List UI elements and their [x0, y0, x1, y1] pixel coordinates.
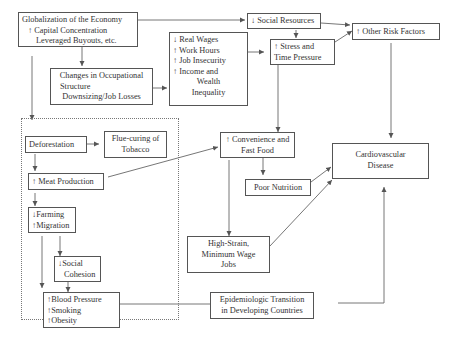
node-poor-nutrition-label: Poor Nutrition: [249, 183, 307, 194]
node-deforestation: Deforestation: [25, 136, 87, 153]
node-social-cohesion-line-2: Cohesion: [58, 270, 97, 281]
node-other-risk-factors: ↑ Other Risk Factors: [352, 23, 440, 40]
node-high-strain-jobs: High-Strain, Minimum Wage Jobs: [187, 236, 270, 273]
node-flue-curing: Flue-curing of Tobacco: [104, 131, 167, 158]
node-cvd-line-2: Disease: [336, 161, 425, 172]
node-globalization-line-3: Leveraged Buyouts, etc.: [22, 36, 134, 47]
node-wages-line-6: Inequality: [173, 88, 244, 99]
node-social-cohesion: ↓Social Cohesion: [54, 256, 101, 282]
node-high-strain-line-2: Minimum Wage: [191, 250, 266, 261]
node-stress-line-1: ↑ Stress and: [274, 42, 331, 53]
node-deforestation-label: Deforestation: [29, 140, 83, 151]
node-convenience-line-1: ↑ Convenience and: [224, 135, 291, 146]
node-cardiovascular-disease: Cardiovascular Disease: [332, 143, 429, 179]
node-epidemiologic-transition: Epidemiologic Transition in Developing C…: [210, 292, 314, 319]
node-wages-line-5: Wealth: [173, 77, 244, 88]
node-farming-migration: ↓Farming ↑Migration: [28, 207, 76, 233]
node-blood-pressure-line-3: ↑Obesity: [47, 316, 116, 327]
diagram-canvas: Globalization of the Economy ↑ Capital C…: [0, 0, 450, 344]
node-occupational-line-1: Changes in Occupational: [54, 71, 149, 82]
node-occupational-line-2: Structure: [54, 82, 149, 93]
node-wages: ↓ Real Wages ↑ Work Hours ↑ Job Insecuri…: [169, 32, 248, 106]
node-meat-production: ↑ Meat Production: [28, 173, 104, 190]
node-flue-curing-line-2: Tobacco: [108, 145, 163, 156]
node-social-cohesion-line-1: ↓Social: [58, 259, 97, 270]
node-farming-line-1: ↓Farming: [32, 210, 72, 221]
node-meat-label: ↑ Meat Production: [32, 177, 100, 188]
node-blood-pressure-line-1: ↑Blood Pressure: [47, 295, 116, 306]
node-social-resources: ↓ Social Resources: [247, 13, 321, 29]
node-wages-line-3: ↑ Job Insecurity: [173, 56, 244, 67]
node-epidemiologic-line-2: in Developing Countries: [214, 306, 310, 317]
node-wages-line-2: ↑ Work Hours: [173, 46, 244, 57]
node-high-strain-line-1: High-Strain,: [191, 239, 266, 250]
node-convenience-line-2: Fast Food: [224, 146, 291, 157]
node-wages-line-1: ↓ Real Wages: [173, 35, 244, 46]
node-blood-pressure-line-2: ↑Smoking: [47, 306, 116, 317]
node-poor-nutrition: Poor Nutrition: [245, 179, 311, 196]
node-occupational-structure: Changes in Occupational Structure Downsi…: [50, 68, 153, 105]
node-farming-line-2: ↑Migration: [32, 221, 72, 232]
node-blood-pressure-smoking-obesity: ↑Blood Pressure ↑Smoking ↑Obesity: [43, 292, 120, 328]
node-globalization-line-2: ↑ Capital Concentration: [22, 26, 134, 37]
node-social-resources-label: ↓ Social Resources: [251, 16, 317, 27]
node-occupational-line-3: Downsizing/Job Losses: [54, 92, 149, 103]
node-epidemiologic-line-1: Epidemiologic Transition: [214, 295, 310, 306]
node-other-risk-label: ↑ Other Risk Factors: [356, 27, 436, 38]
node-convenience-fast-food: ↑ Convenience and Fast Food: [220, 132, 295, 158]
node-cvd-line-1: Cardiovascular: [336, 150, 425, 161]
node-flue-curing-line-1: Flue-curing of: [108, 134, 163, 145]
node-stress: ↑ Stress and Time Pressure: [270, 39, 335, 65]
node-globalization: Globalization of the Economy ↑ Capital C…: [18, 12, 138, 47]
node-globalization-line-1: Globalization of the Economy: [22, 15, 134, 26]
node-wages-line-4: ↑ Income and: [173, 67, 244, 78]
node-high-strain-line-3: Jobs: [191, 260, 266, 271]
node-stress-line-2: Time Pressure: [274, 53, 331, 64]
